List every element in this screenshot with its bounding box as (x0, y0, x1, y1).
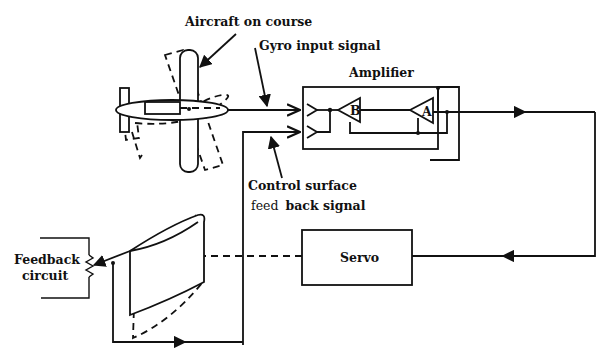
control-surface (111, 215, 243, 342)
potentiometer-icon (86, 255, 93, 277)
servo-block: Servo (302, 230, 412, 285)
feedback-label-line1: Feedback (14, 252, 80, 267)
amplifier-block: Amplifier B A (303, 65, 595, 160)
amplifier-label: Amplifier (348, 65, 414, 80)
servo-label: Servo (340, 250, 379, 265)
control-surface-label-line1: Control surface (248, 178, 357, 193)
autopilot-diagram: Aircraft on course Gyro input signal Con… (0, 0, 612, 359)
control-surface-label-line2: feed back signal (251, 195, 366, 214)
feedback-label-line2: circuit (22, 268, 68, 283)
svg-text:A: A (421, 104, 432, 119)
aircraft-label: Aircraft on course (184, 14, 312, 29)
aircraft-fuselage (116, 100, 228, 120)
feedback-signal-line: Control surface feed back signal (243, 132, 366, 345)
svg-text:B: B (350, 103, 361, 118)
gyro-signal-label: Gyro input signal (259, 38, 381, 53)
